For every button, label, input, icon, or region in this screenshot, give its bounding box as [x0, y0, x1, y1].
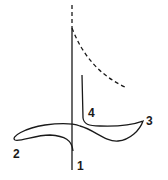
diagram-drawing	[0, 0, 168, 180]
diagram-canvas: 1 2 3 4	[0, 0, 168, 180]
point-label-1: 1	[77, 160, 84, 172]
point-label-3: 3	[146, 115, 153, 127]
dashed-curve	[72, 28, 125, 87]
point-label-4: 4	[88, 107, 95, 119]
point-label-2: 2	[13, 148, 20, 160]
